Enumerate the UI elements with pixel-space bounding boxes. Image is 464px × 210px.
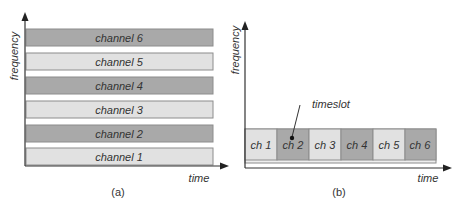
y-axis-label: frequency [8, 30, 20, 80]
timeslot-5: ch 5 [373, 129, 405, 160]
channel-bars: channel 6 channel 5 channel 4 channel 3 … [26, 29, 213, 165]
x-axis-arrow-icon [220, 163, 229, 170]
channel-bar-3: channel 3 [26, 101, 213, 118]
channel-label: channel 3 [95, 104, 144, 116]
channel-label: channel 6 [95, 32, 144, 44]
figure-a: channel 6 channel 5 channel 4 channel 3 … [8, 12, 229, 198]
figure-b: ch 1 ch 2 ch 3 ch 4 ch 5 ch 6 [229, 21, 452, 198]
channel-label: channel 2 [95, 128, 143, 140]
caption-a: (a) [111, 186, 124, 198]
y-axis-arrow-icon [242, 21, 249, 30]
slot-label: ch 2 [283, 139, 304, 151]
timeslot-4: ch 4 [341, 129, 373, 160]
channel-bar-2: channel 2 [26, 125, 213, 142]
timeslot-pointer-dot-icon [290, 136, 294, 140]
x-axis-label: time [189, 172, 210, 184]
channel-bar-5: channel 5 [26, 53, 213, 70]
timeslot-3: ch 3 [309, 129, 341, 160]
slot-label: ch 4 [347, 139, 368, 151]
timeslot-annotation: timeslot [312, 98, 351, 110]
channel-label: channel 1 [95, 151, 143, 163]
channel-bar-1: channel 1 [26, 148, 213, 165]
slot-label: ch 5 [379, 139, 401, 151]
channel-label: channel 5 [95, 56, 144, 68]
slot-label: ch 1 [251, 139, 272, 151]
x-axis-label: time [418, 172, 439, 184]
y-axis-arrow-icon [22, 12, 29, 21]
fdm-tdm-diagram: channel 6 channel 5 channel 4 channel 3 … [0, 0, 464, 210]
channel-bar-6: channel 6 [26, 29, 213, 46]
x-axis-arrow-icon [443, 165, 452, 172]
channel-bar-4: channel 4 [26, 77, 213, 94]
slot-label: ch 6 [410, 139, 432, 151]
slot-label: ch 3 [315, 139, 337, 151]
timeslot-6: ch 6 [405, 129, 436, 160]
channel-label: channel 4 [95, 80, 143, 92]
y-axis-label: frequency [229, 24, 241, 74]
caption-b: (b) [332, 186, 345, 198]
timeslot-1: ch 1 [245, 129, 277, 160]
timeslots: ch 1 ch 2 ch 3 ch 4 ch 5 ch 6 [245, 129, 436, 160]
